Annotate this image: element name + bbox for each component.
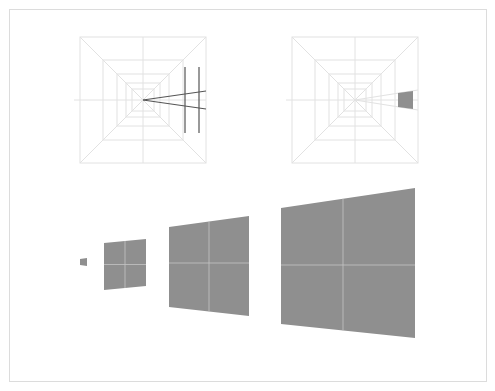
grid-diagonal [80, 100, 143, 163]
grid-diagonal [355, 100, 418, 163]
projected-small-quad [398, 91, 413, 109]
quad-2 [104, 239, 146, 290]
converging-line [143, 91, 206, 100]
tunnel-grid-right [286, 37, 418, 163]
quad-4 [281, 188, 415, 338]
grid-diagonal [292, 100, 355, 163]
grid-diagonal [80, 37, 143, 100]
perspective-diagram-canvas [0, 0, 495, 391]
quad-1 [80, 258, 87, 266]
perspective-quads-row [80, 188, 415, 338]
quad-fill [281, 188, 415, 338]
grid-diagonal [143, 37, 206, 100]
tunnel-grid-left [74, 37, 206, 163]
grid-diagonal [292, 37, 355, 100]
converging-line [143, 100, 206, 109]
grid-diagonal [143, 100, 206, 163]
quad-fill [80, 258, 87, 266]
grid-diagonal [355, 37, 418, 100]
quad-3 [169, 216, 249, 316]
perspective-illustration [0, 0, 495, 391]
